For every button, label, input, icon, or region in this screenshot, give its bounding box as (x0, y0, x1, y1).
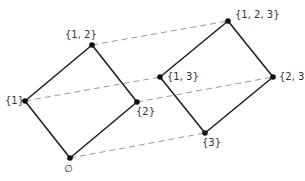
node-3 (202, 130, 208, 136)
node-2 (134, 99, 140, 105)
node-label-3: {3} (202, 137, 221, 149)
solid-edge (70, 102, 137, 158)
node-23 (270, 74, 276, 80)
node-label-1: {1} (5, 95, 24, 107)
node-13 (157, 74, 163, 80)
solid-edge (92, 45, 137, 102)
hasse-diagram (0, 0, 305, 181)
solid-edge (228, 21, 273, 77)
node-12 (89, 42, 95, 48)
solid-edge (205, 77, 273, 133)
node-empty (67, 155, 73, 161)
solid-edge (160, 77, 205, 133)
solid-edge (160, 21, 228, 77)
node-label-12: {1, 2} (65, 29, 97, 41)
dashed-edge (25, 77, 160, 101)
node-label-13: {1, 3} (167, 71, 199, 83)
dashed-edge (137, 77, 273, 102)
node-label-123: {1, 2, 3} (235, 9, 280, 21)
node-label-empty: ∅ (64, 163, 73, 175)
node-label-2: {2} (136, 106, 155, 118)
solid-edge (25, 101, 70, 158)
dashed-edge (70, 133, 205, 158)
dashed-edge (92, 21, 228, 45)
node-label-23: {2, 3} (279, 71, 305, 83)
solid-edge (25, 45, 92, 101)
node-123 (225, 18, 231, 24)
